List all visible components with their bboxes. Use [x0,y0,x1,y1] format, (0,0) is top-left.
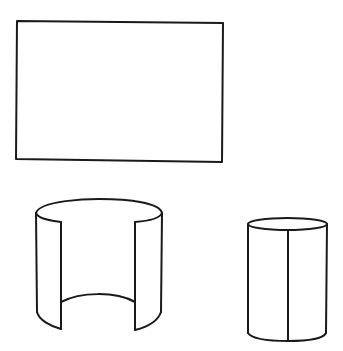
open-cylinder-right-bottom [135,312,161,330]
open-cylinder-inner-arc [61,294,135,302]
open-cylinder-outer-right-edge [161,213,162,312]
open-cylinder-shape [36,199,162,330]
open-cylinder-top-rim [36,199,162,213]
open-cylinder-left-rim [36,213,61,222]
diagram-canvas [0,0,343,351]
open-cylinder-outer-left-edge [36,213,37,312]
closed-cylinder-right-edge [326,224,327,333]
open-cylinder-left-bottom [37,312,61,329]
closed-cylinder-top-ellipse [248,218,327,230]
closed-cylinder-shape [248,218,327,341]
open-cylinder-right-rim [135,213,162,222]
rectangle-shape [16,21,223,162]
